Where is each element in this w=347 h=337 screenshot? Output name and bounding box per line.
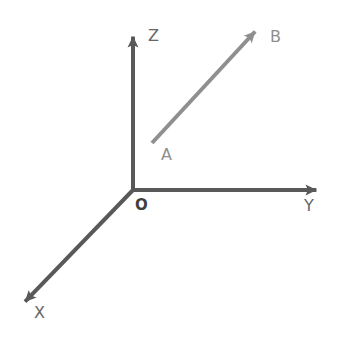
origin-label: O — [135, 196, 148, 214]
point-b-label: B — [270, 27, 281, 46]
x-axis-label: X — [34, 303, 45, 322]
y-axis-group: Y — [133, 190, 316, 215]
x-axis-line — [25, 190, 133, 302]
z-axis-label: Z — [148, 26, 159, 45]
axes-diagram-svg: Z Y X O A B — [0, 0, 347, 337]
y-axis-label: Y — [303, 196, 314, 215]
diagram-canvas: Z Y X O A B — [0, 0, 347, 337]
x-axis-group: X — [25, 190, 133, 322]
vector-ab-group: A B — [152, 27, 281, 164]
vector-ab-line — [152, 32, 255, 143]
point-a-label: A — [161, 145, 172, 164]
z-axis-group: Z — [133, 26, 159, 191]
